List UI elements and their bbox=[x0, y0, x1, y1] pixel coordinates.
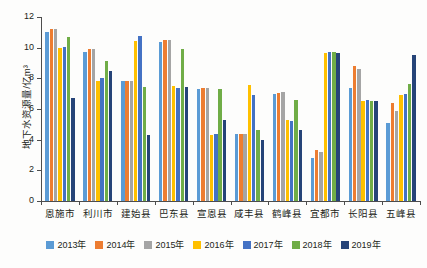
legend-item[interactable]: 2018年 bbox=[292, 238, 332, 251]
x-axis-category-label: 利川市 bbox=[83, 206, 113, 220]
bar bbox=[235, 134, 238, 201]
legend-swatch-icon bbox=[341, 241, 349, 249]
bar bbox=[71, 98, 74, 202]
bar bbox=[210, 135, 213, 201]
bar bbox=[404, 94, 407, 201]
legend-swatch-icon bbox=[144, 241, 152, 249]
legend-label: 2018年 bbox=[303, 238, 332, 251]
bar bbox=[181, 49, 184, 201]
bar bbox=[125, 81, 128, 201]
legend-item[interactable]: 2015年 bbox=[144, 238, 184, 251]
bar bbox=[332, 52, 335, 201]
legend-label: 2015年 bbox=[155, 238, 184, 251]
x-axis-tick bbox=[231, 201, 232, 205]
legend-item[interactable]: 2019年 bbox=[341, 238, 381, 251]
legend-item[interactable]: 2014年 bbox=[95, 238, 135, 251]
bar bbox=[100, 78, 103, 201]
legend-swatch-icon bbox=[292, 241, 300, 249]
x-axis-tick bbox=[306, 201, 307, 205]
y-axis-tick-label: 8 bbox=[29, 72, 34, 82]
bar bbox=[299, 130, 302, 201]
bar bbox=[273, 94, 276, 201]
x-axis-category-label: 鹤峰县 bbox=[272, 206, 302, 220]
legend-swatch-icon bbox=[95, 241, 103, 249]
bar bbox=[315, 150, 318, 201]
chart-legend: 2013年2014年2015年2016年2017年2018年2019年 bbox=[0, 238, 427, 251]
bar bbox=[370, 101, 373, 201]
bar bbox=[391, 103, 394, 201]
bar bbox=[294, 100, 297, 201]
legend-item[interactable]: 2013年 bbox=[46, 238, 86, 251]
bar bbox=[386, 123, 389, 201]
bar bbox=[138, 36, 141, 201]
bar bbox=[261, 140, 264, 201]
x-axis-category-label: 五峰县 bbox=[386, 206, 416, 220]
legend-swatch-icon bbox=[193, 241, 201, 249]
x-axis-category-label: 宣恩县 bbox=[197, 206, 227, 220]
bar bbox=[83, 52, 86, 202]
bar bbox=[218, 89, 221, 201]
x-axis-tick bbox=[193, 201, 194, 205]
bar-group bbox=[306, 17, 344, 201]
y-axis-tick-label: 4 bbox=[29, 134, 34, 144]
legend-label: 2016年 bbox=[204, 238, 233, 251]
bar bbox=[311, 158, 314, 201]
bar bbox=[399, 95, 402, 201]
x-axis-tick bbox=[155, 201, 156, 205]
bar bbox=[374, 101, 377, 201]
x-axis-tick bbox=[268, 201, 269, 205]
bar bbox=[256, 130, 259, 201]
x-axis-category-label: 长阳县 bbox=[348, 206, 378, 220]
bar-group bbox=[231, 17, 269, 201]
legend-item[interactable]: 2017年 bbox=[243, 238, 283, 251]
bar-group bbox=[79, 17, 117, 201]
bar-group bbox=[155, 17, 193, 201]
bar bbox=[54, 29, 57, 201]
x-axis-tick bbox=[420, 201, 421, 205]
bar bbox=[319, 152, 322, 201]
x-axis-category-label: 恩施市 bbox=[45, 206, 75, 220]
bar bbox=[353, 66, 356, 201]
bar bbox=[185, 87, 188, 201]
y-axis-tick-label: 10 bbox=[24, 42, 34, 52]
bar bbox=[109, 71, 112, 201]
x-axis-tick bbox=[344, 201, 345, 205]
bar-group bbox=[344, 17, 382, 201]
bar bbox=[121, 81, 124, 201]
x-axis-category-label: 巴东县 bbox=[159, 206, 189, 220]
bar bbox=[63, 47, 66, 201]
legend-label: 2014年 bbox=[106, 238, 135, 251]
bar-group bbox=[268, 17, 306, 201]
bar bbox=[290, 121, 293, 201]
bar bbox=[412, 55, 415, 201]
bar bbox=[328, 52, 331, 201]
bar bbox=[239, 134, 242, 201]
x-axis-tick bbox=[41, 201, 42, 205]
bar bbox=[324, 53, 327, 201]
bar bbox=[172, 86, 175, 201]
bar bbox=[349, 88, 352, 201]
bar-group bbox=[41, 17, 79, 201]
x-axis-category-label: 咸丰县 bbox=[234, 206, 264, 220]
y-axis-tick-label: 6 bbox=[29, 103, 34, 113]
bar bbox=[366, 100, 369, 201]
legend-label: 2017年 bbox=[254, 238, 283, 251]
bar bbox=[252, 95, 255, 201]
y-axis-tick-label: 12 bbox=[24, 11, 34, 21]
y-axis-tick-label: 2 bbox=[29, 164, 34, 174]
bar bbox=[176, 88, 179, 201]
x-axis-tick bbox=[382, 201, 383, 205]
bar bbox=[277, 93, 280, 201]
x-axis-category-label: 宜都市 bbox=[310, 206, 340, 220]
bar bbox=[168, 40, 171, 201]
bar bbox=[243, 134, 246, 201]
x-axis-tick bbox=[79, 201, 80, 205]
bar bbox=[134, 41, 137, 201]
x-axis-category-label: 建始县 bbox=[121, 206, 151, 220]
bar-group bbox=[193, 17, 231, 201]
legend-item[interactable]: 2016年 bbox=[193, 238, 233, 251]
bar bbox=[143, 87, 146, 201]
bar bbox=[105, 61, 108, 201]
bar bbox=[206, 88, 209, 201]
bar bbox=[67, 37, 70, 201]
